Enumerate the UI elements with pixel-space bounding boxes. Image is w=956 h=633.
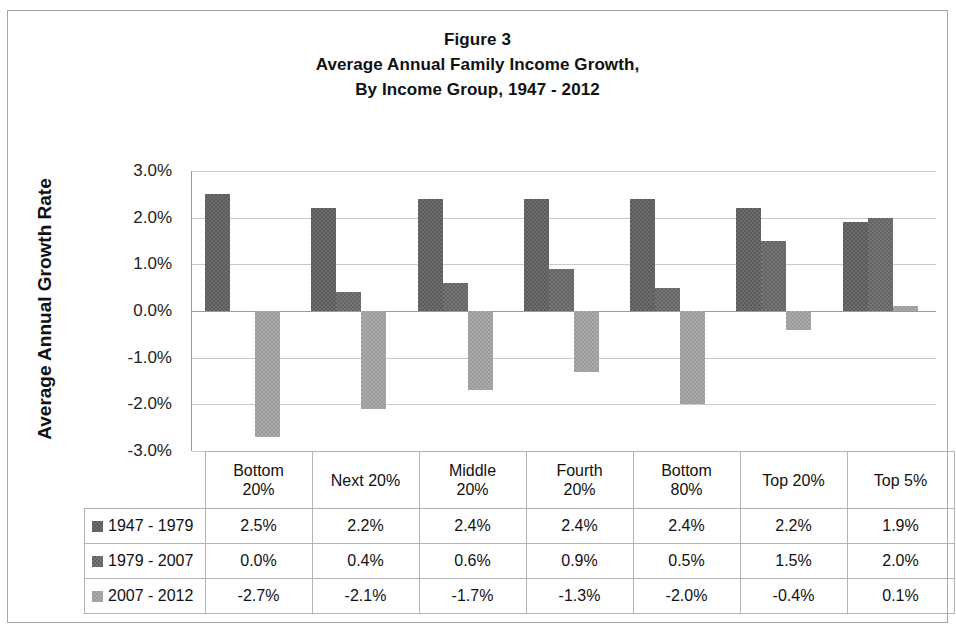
table-cell: 0.1% — [847, 579, 954, 614]
column-header-1: Next 20% — [312, 452, 419, 509]
bar-fill — [336, 292, 361, 311]
y-tick-3: 0.0% — [133, 301, 172, 321]
bar-fill — [311, 208, 336, 311]
table-cell: 2.4% — [526, 509, 633, 544]
bar-fill — [255, 311, 280, 437]
bar-fill — [574, 311, 599, 372]
y-axis-title: Average Annual Growth Rate — [34, 159, 64, 459]
bar-fill — [549, 269, 574, 311]
bar-fill — [205, 194, 230, 311]
bar-fill — [761, 241, 786, 311]
bar-group — [511, 171, 617, 451]
plot-area — [191, 171, 936, 451]
bar-fill — [868, 218, 893, 311]
legend-label: 1979 - 2007 — [108, 552, 193, 569]
legend-entry-1: 1979 - 2007 — [85, 544, 206, 579]
table-cell: 2.4% — [633, 509, 740, 544]
column-header-6: Top 5% — [847, 452, 954, 509]
table-cell: 0.6% — [419, 544, 526, 579]
table-cell: 1.9% — [847, 509, 954, 544]
column-header-2: Middle20% — [419, 452, 526, 509]
column-header-3: Fourth20% — [526, 452, 633, 509]
y-tick-2: 1.0% — [133, 254, 172, 274]
legend-label: 1947 - 1979 — [108, 517, 193, 534]
table-cell: 0.4% — [312, 544, 419, 579]
bar-fill — [630, 199, 655, 311]
legend-swatch-icon — [92, 556, 103, 567]
bar-fill — [443, 283, 468, 311]
bar-fill — [680, 311, 705, 404]
table-corner-cell — [85, 452, 206, 509]
table-row: 1979 - 20070.0%0.4%0.6%0.9%0.5%1.5%2.0% — [85, 544, 955, 579]
bar-fill — [468, 311, 493, 390]
table-cell: -2.7% — [205, 579, 312, 614]
bar-group — [192, 171, 298, 451]
table-header-row: Bottom20%Next 20%Middle20%Fourth20%Botto… — [85, 452, 955, 509]
bar-group — [405, 171, 511, 451]
bar-fill — [361, 311, 386, 409]
bar-group — [617, 171, 723, 451]
table-cell: 2.4% — [419, 509, 526, 544]
y-tick-0: 3.0% — [133, 161, 172, 181]
legend-label: 2007 - 2012 — [108, 587, 193, 604]
table-row: 1947 - 19792.5%2.2%2.4%2.4%2.4%2.2%1.9% — [85, 509, 955, 544]
bar-fill — [418, 199, 443, 311]
legend-swatch-icon — [92, 591, 103, 602]
bar-fill — [786, 311, 811, 330]
bar-group — [723, 171, 829, 451]
data-table: Bottom20%Next 20%Middle20%Fourth20%Botto… — [84, 451, 955, 614]
y-tick-4: -1.0% — [128, 348, 172, 368]
bar-fill — [655, 288, 680, 311]
bar-fill — [736, 208, 761, 311]
legend-entry-0: 1947 - 1979 — [85, 509, 206, 544]
bar-fill — [524, 199, 549, 311]
bar-group — [830, 171, 936, 451]
legend-entry-2: 2007 - 2012 — [85, 579, 206, 614]
bar-group — [298, 171, 404, 451]
table-cell: 1.5% — [740, 544, 847, 579]
bar-groups — [192, 171, 936, 451]
table-cell: -2.0% — [633, 579, 740, 614]
table-cell: 0.5% — [633, 544, 740, 579]
column-header-5: Top 20% — [740, 452, 847, 509]
table-cell: -1.7% — [419, 579, 526, 614]
table-row: 2007 - 2012-2.7%-2.1%-1.7%-1.3%-2.0%-0.4… — [85, 579, 955, 614]
table-cell: -1.3% — [526, 579, 633, 614]
figure-frame: Figure 3 Average Annual Family Income Gr… — [7, 10, 948, 623]
column-header-0: Bottom20% — [205, 452, 312, 509]
table-cell: -2.1% — [312, 579, 419, 614]
y-tick-1: 2.0% — [133, 208, 172, 228]
bar-fill — [893, 306, 918, 311]
table-cell: 2.5% — [205, 509, 312, 544]
table-cell: 0.9% — [526, 544, 633, 579]
column-header-4: Bottom80% — [633, 452, 740, 509]
table-cell: 2.2% — [740, 509, 847, 544]
table-cell: -0.4% — [740, 579, 847, 614]
table-cell: 0.0% — [205, 544, 312, 579]
table-cell: 2.2% — [312, 509, 419, 544]
y-tick-5: -2.0% — [128, 394, 172, 414]
table-cell: 2.0% — [847, 544, 954, 579]
legend-swatch-icon — [92, 521, 103, 532]
bar-fill — [843, 222, 868, 311]
